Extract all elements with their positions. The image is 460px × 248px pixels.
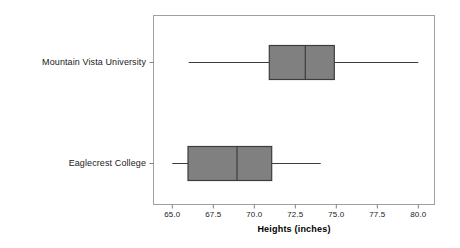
x-tick-label-65: 65.0	[152, 210, 192, 220]
x-tick-label-77-5: 77.5	[357, 210, 397, 220]
x-tick-label-72-5: 72.5	[275, 210, 315, 220]
category-label-upper: Mountain Vista University	[0, 57, 146, 68]
box-rect-upper	[269, 46, 334, 80]
x-tick-label-67-5: 67.5	[193, 210, 233, 220]
x-tick-label-70: 70.0	[234, 210, 274, 220]
x-axis-ticks	[172, 205, 418, 209]
y-axis-ticks	[150, 63, 154, 164]
x-tick-label-80: 80.0	[398, 210, 438, 220]
x-tick-label-75: 75.0	[316, 210, 356, 220]
x-axis-title: Heights (inches)	[153, 224, 435, 235]
box-rect-lower	[188, 147, 272, 181]
boxplot-figure: Mountain Vista University Eaglecrest Col…	[0, 0, 460, 248]
category-label-lower: Eaglecrest College	[0, 158, 146, 169]
